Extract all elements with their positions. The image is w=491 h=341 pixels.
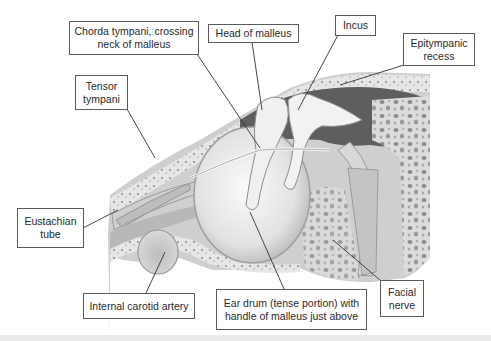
label-ear-drum: Ear drum (tense portion) with handle of … xyxy=(216,289,367,330)
label-eustachian-tube: Eustachian tube xyxy=(17,208,84,248)
caption-fragment xyxy=(0,335,491,341)
label-facial-nerve: Facial nerve xyxy=(380,280,424,317)
label-incus: Incus xyxy=(335,15,376,36)
label-tensor-tympani: Tensor tympani xyxy=(75,75,128,110)
label-chorda-tympani: Chorda tympani, crossing neck of malleus xyxy=(69,21,199,55)
label-epitympanic-recess: Epitympanic recess xyxy=(403,33,475,66)
label-head-of-malleus: Head of malleus xyxy=(208,24,299,43)
label-internal-carotid-artery: Internal carotid artery xyxy=(83,293,195,319)
